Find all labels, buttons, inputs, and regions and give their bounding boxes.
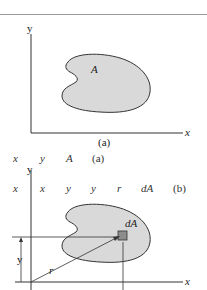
element-dA-label: dA: [125, 218, 137, 229]
distance-y-label: y: [17, 254, 23, 265]
region-a-shape: [62, 54, 150, 112]
overlay-row-2-item: dA: [141, 182, 153, 194]
overlay-row-2: x x y y r dA (b): [0, 182, 207, 196]
region-b-shape: [62, 204, 150, 262]
overlay-row-1-item: A: [66, 152, 73, 164]
overlay-row-1-item: x: [13, 152, 18, 164]
overlay-row-2-item: y: [91, 182, 96, 194]
figure-a-y-axis-label: y: [27, 23, 33, 34]
figure-b-x-axis-label: x: [185, 276, 190, 287]
figure-b-y-axis-label: y: [27, 164, 33, 175]
area-element-dA: [118, 231, 127, 240]
overlay-row-2-item: x: [13, 182, 18, 194]
y-dimension-arrowhead-icon: [19, 237, 23, 242]
overlay-row-1-item: (a): [92, 152, 104, 164]
figure-a-caption: (a): [98, 136, 110, 148]
figure-a-x-axis-label: x: [185, 127, 190, 138]
overlay-row-2-item: x: [40, 182, 45, 194]
overlay-row-2-item: r: [117, 182, 121, 194]
overlay-row-2-item: y: [66, 182, 71, 194]
overlay-row-2-item: (b): [173, 182, 186, 194]
region-a-label: A: [91, 64, 98, 75]
overlay-row-1-item: y: [40, 152, 45, 164]
radius-r-label: r: [49, 265, 53, 276]
